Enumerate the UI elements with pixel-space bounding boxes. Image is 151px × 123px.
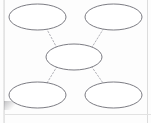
connector-center-to-top-right (92, 30, 104, 49)
concept-map-diagram (0, 0, 151, 123)
node-top-left[interactable] (9, 4, 66, 30)
node-center[interactable] (46, 44, 102, 70)
node-ellipse-bottom-right[interactable] (85, 82, 142, 108)
node-bottom-right[interactable] (85, 82, 142, 108)
node-layer (9, 4, 142, 108)
node-ellipse-center[interactable] (46, 44, 102, 70)
node-ellipse-top-left[interactable] (9, 4, 66, 30)
worksheet-canvas (0, 0, 151, 123)
node-top-right[interactable] (85, 4, 142, 30)
node-bottom-left[interactable] (9, 82, 66, 108)
node-ellipse-top-right[interactable] (85, 4, 142, 30)
connector-center-to-bottom-left (47, 67, 57, 84)
connector-center-to-bottom-right (92, 67, 104, 84)
node-ellipse-bottom-left[interactable] (9, 82, 66, 108)
connector-center-to-top-left (47, 30, 57, 49)
